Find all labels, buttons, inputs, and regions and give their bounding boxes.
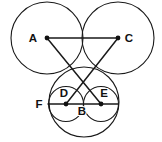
point-label-E: E [100, 87, 108, 99]
point-label-D: D [60, 87, 68, 99]
vertex-dot-C [116, 36, 121, 41]
vertex-dot-A [45, 36, 50, 41]
figure-canvas: A C B D E F [0, 0, 162, 142]
point-label-B: B [78, 105, 86, 117]
point-label-F: F [35, 98, 42, 110]
vertex-dot-E [99, 102, 104, 107]
geometry-figure: A C B D E F [0, 0, 162, 142]
point-label-C: C [125, 32, 133, 44]
point-label-A: A [29, 32, 37, 44]
vertex-dot-D [64, 102, 69, 107]
